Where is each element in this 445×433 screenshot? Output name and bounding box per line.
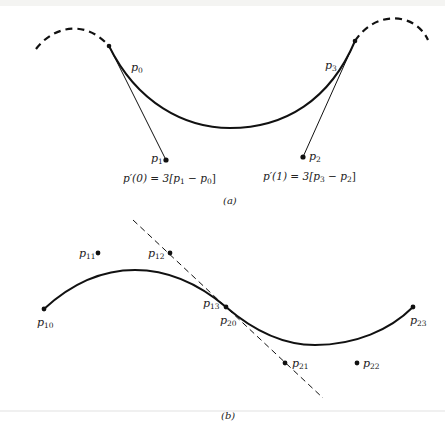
label-p12: p12 (148, 247, 165, 261)
point-p23 (411, 305, 416, 310)
label-p20: p20 (220, 314, 237, 328)
dashed-continuation-left (36, 29, 109, 49)
point-p0 (107, 44, 112, 49)
bezier-segment-2 (226, 307, 413, 345)
point-p2 (300, 154, 305, 159)
label-p11: p11 (79, 247, 96, 261)
caption-a: (a) (223, 195, 237, 206)
panel-b: p10 p11 p12 p13 p20 p21 p22 p23 (b) (37, 220, 427, 421)
point-p3 (353, 39, 358, 44)
point-p21 (283, 361, 288, 366)
formula-start-derivative: p′(0) = 3[p1 − p0] (123, 172, 216, 186)
caption-b: (b) (221, 410, 235, 421)
label-p23: p23 (410, 314, 427, 328)
label-p21: p21 (292, 357, 309, 371)
point-p11 (96, 251, 101, 256)
label-p10: p10 (37, 316, 54, 330)
label-p0: p0 (131, 61, 143, 75)
label-p22: p22 (363, 357, 380, 371)
point-p1 (163, 157, 168, 162)
bezier-segment-1 (44, 270, 226, 309)
point-p10 (42, 307, 47, 312)
point-p12 (168, 251, 173, 256)
point-p13-p20 (224, 305, 229, 310)
label-p1: p1 (151, 152, 163, 166)
formula-end-derivative: p′(1) = 3[p3 − p2] (263, 170, 356, 184)
point-p22 (355, 361, 360, 366)
panel-a: p0 p3 p1 p2 p′(0) = 3[p1 − p0] p′(1) = 3… (36, 18, 428, 206)
bezier-continuity-figure: p0 p3 p1 p2 p′(0) = 3[p1 − p0] p′(1) = 3… (0, 0, 445, 433)
bezier-curve-a (109, 41, 355, 128)
label-p3: p3 (325, 59, 337, 73)
dashed-continuation-right (355, 18, 428, 41)
label-p2: p2 (309, 150, 321, 164)
